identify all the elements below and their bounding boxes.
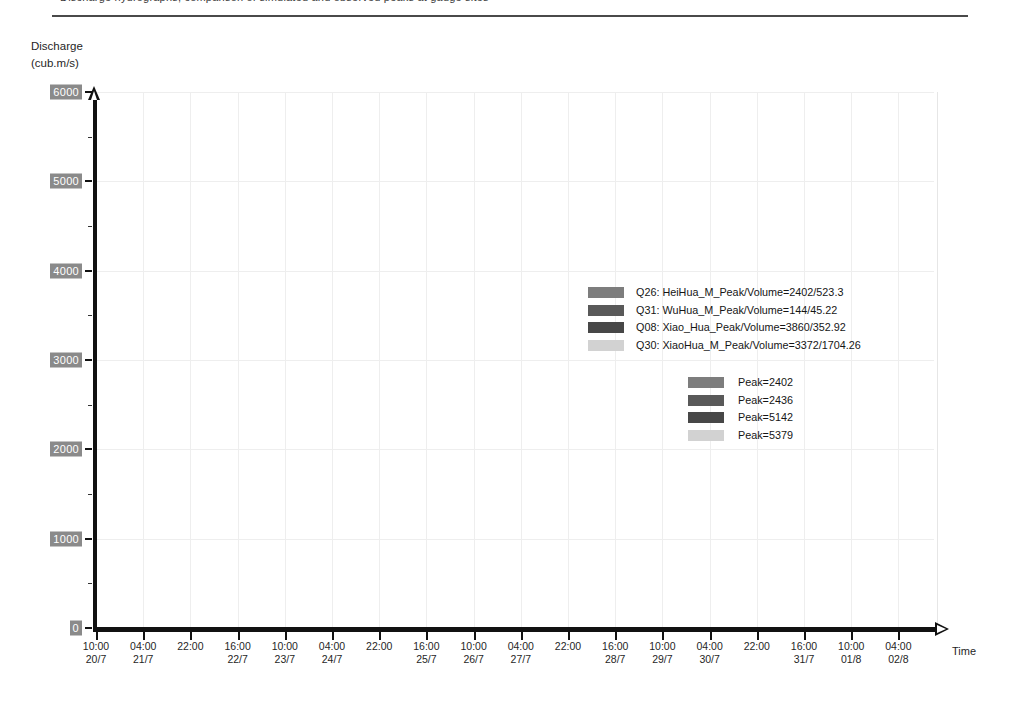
x-axis-label-date: 31/7 bbox=[791, 653, 817, 666]
legend-peak-label: Peak=2402 bbox=[738, 374, 793, 392]
gridline-v bbox=[662, 92, 663, 628]
gridline-v bbox=[757, 92, 758, 628]
x-axis-label-time: 16:00 bbox=[602, 640, 628, 653]
x-axis-label-date: 01/8 bbox=[838, 653, 864, 666]
y-axis-tick bbox=[85, 627, 92, 629]
gridline-h bbox=[96, 181, 934, 182]
gridline-h bbox=[96, 449, 934, 450]
legend-series-row[interactable]: Q31: WuHua_M_Peak/Volume=144/45.22 bbox=[588, 302, 861, 320]
x-axis-label-date: 23/7 bbox=[272, 653, 298, 666]
x-axis-label-date: 26/7 bbox=[460, 653, 486, 666]
y-axis-tick-minor bbox=[88, 494, 92, 495]
legend-series-row[interactable]: Q30: XiaoHua_M_Peak/Volume=3372/1704.26 bbox=[588, 337, 861, 355]
legend-series-swatch-icon bbox=[588, 287, 624, 298]
x-axis-label: 10:0029/7 bbox=[649, 640, 675, 666]
gridline-h bbox=[96, 92, 934, 93]
legend-series-swatch-icon bbox=[588, 305, 624, 316]
x-axis-tick bbox=[190, 632, 192, 640]
x-axis-label-time: 04:00 bbox=[130, 640, 156, 653]
y-axis-label: 5000 bbox=[50, 174, 82, 189]
x-axis-tick bbox=[285, 632, 287, 640]
x-axis-label-time: 16:00 bbox=[413, 640, 439, 653]
y-axis-title-line2: (cub.m/s) bbox=[31, 55, 83, 72]
y-axis-tick-minor bbox=[88, 137, 92, 138]
x-axis-tick bbox=[96, 632, 98, 640]
x-axis-label-time: 16:00 bbox=[791, 640, 817, 653]
x-axis-line bbox=[93, 627, 938, 632]
y-axis-line bbox=[93, 98, 97, 630]
x-axis-tick bbox=[426, 632, 428, 640]
x-axis-label: 04:0002/8 bbox=[885, 640, 911, 666]
x-axis-label: 10:0001/8 bbox=[838, 640, 864, 666]
x-axis-label-time: 04:00 bbox=[696, 640, 722, 653]
legend-peak-row[interactable]: Peak=2436 bbox=[688, 392, 793, 410]
x-axis-tick bbox=[615, 632, 617, 640]
x-axis-label: 22:00 bbox=[555, 640, 581, 653]
gridline-v bbox=[426, 92, 427, 628]
y-axis-tick bbox=[85, 359, 92, 361]
y-axis-label: 2000 bbox=[50, 442, 82, 457]
x-axis-tick bbox=[804, 632, 806, 640]
x-axis-label-time: 10:00 bbox=[649, 640, 675, 653]
x-axis-label: 22:00 bbox=[177, 640, 203, 653]
x-axis-label: 04:0024/7 bbox=[319, 640, 345, 666]
legend-peak-row[interactable]: Peak=2402 bbox=[688, 374, 793, 392]
x-axis-label: 22:00 bbox=[744, 640, 770, 653]
x-axis-label: 04:0027/7 bbox=[508, 640, 534, 666]
x-axis-label: 10:0023/7 bbox=[272, 640, 298, 666]
x-axis-tick bbox=[521, 632, 523, 640]
x-axis-label: 16:0028/7 bbox=[602, 640, 628, 666]
x-axis-label: 16:0031/7 bbox=[791, 640, 817, 666]
legend-peak-row[interactable]: Peak=5379 bbox=[688, 427, 793, 445]
y-axis-label: 1000 bbox=[50, 531, 82, 546]
y-axis-label: 3000 bbox=[50, 353, 82, 368]
legend-peak-swatch-icon bbox=[688, 430, 724, 441]
x-axis-tick bbox=[898, 632, 900, 640]
x-axis-label: 16:0025/7 bbox=[413, 640, 439, 666]
legend-peak-swatch-icon bbox=[688, 377, 724, 388]
gridline-v bbox=[332, 92, 333, 628]
x-axis-label-date: 27/7 bbox=[508, 653, 534, 666]
gridline-v bbox=[710, 92, 711, 628]
x-axis-tick bbox=[238, 632, 240, 640]
x-axis-label-date: 22/7 bbox=[224, 653, 250, 666]
horizontal-rule bbox=[52, 15, 968, 17]
gridline-v bbox=[379, 92, 380, 628]
x-axis-label-time: 10:00 bbox=[83, 640, 109, 653]
x-axis-label-date: 25/7 bbox=[413, 653, 439, 666]
legend-peak-label: Peak=5379 bbox=[738, 427, 793, 445]
legend-series-row[interactable]: Q26: HeiHua_M_Peak/Volume=2402/523.3 bbox=[588, 284, 861, 302]
gridline-v bbox=[238, 92, 239, 628]
x-axis-tick bbox=[379, 632, 381, 640]
legend-series-swatch-icon bbox=[588, 340, 624, 351]
y-axis-tick-minor bbox=[88, 405, 92, 406]
x-axis-label-date: 20/7 bbox=[83, 653, 109, 666]
y-axis-tick bbox=[85, 270, 92, 272]
legend-peaks: Peak=2402Peak=2436Peak=5142Peak=5379 bbox=[688, 374, 793, 444]
gridline-h bbox=[96, 539, 934, 540]
gridline-h bbox=[96, 360, 934, 361]
x-axis-label: 04:0021/7 bbox=[130, 640, 156, 666]
legend-peak-swatch-icon bbox=[688, 412, 724, 423]
y-axis-tick bbox=[85, 448, 92, 450]
x-axis-label-date: 29/7 bbox=[649, 653, 675, 666]
legend-series-label: Q26: HeiHua_M_Peak/Volume=2402/523.3 bbox=[636, 284, 843, 302]
legend-series-row[interactable]: Q08: Xiao_Hua_Peak/Volume=3860/352.92 bbox=[588, 319, 861, 337]
x-axis-label: 22:00 bbox=[366, 640, 392, 653]
y-axis-label: 0 bbox=[70, 621, 82, 636]
x-axis-label-time: 10:00 bbox=[272, 640, 298, 653]
gridline-v bbox=[898, 92, 899, 628]
legend-peak-row[interactable]: Peak=5142 bbox=[688, 409, 793, 427]
x-axis-title: Time bbox=[952, 645, 976, 657]
y-axis-tick-minor bbox=[88, 226, 92, 227]
y-axis-tick bbox=[85, 91, 92, 93]
y-axis-title-line1: Discharge bbox=[31, 38, 83, 55]
y-axis-label: 4000 bbox=[50, 263, 82, 278]
x-axis-tick bbox=[332, 632, 334, 640]
x-axis-label-time: 04:00 bbox=[885, 640, 911, 653]
gridline-v bbox=[521, 92, 522, 628]
plot-area bbox=[96, 92, 934, 628]
x-axis-label-date: 28/7 bbox=[602, 653, 628, 666]
x-axis-label-date: 24/7 bbox=[319, 653, 345, 666]
x-axis-label-date: 30/7 bbox=[696, 653, 722, 666]
